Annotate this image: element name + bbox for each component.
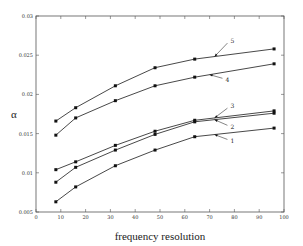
x-tick-label: 50 (157, 214, 163, 220)
x-tick-label: 100 (279, 214, 289, 220)
series-3-marker (54, 168, 57, 171)
x-tick-label: 80 (231, 214, 237, 220)
series-5-line (56, 49, 274, 121)
annotation-arrowhead (215, 135, 218, 137)
y-axis-title: α (11, 108, 17, 120)
x-tick-label: 10 (58, 214, 64, 220)
series-2-marker (54, 181, 57, 184)
series-1-marker (273, 127, 276, 130)
annotation-arrowhead (210, 74, 213, 76)
series-2-marker (114, 149, 117, 152)
series-4-marker (74, 116, 77, 119)
series-4-marker (154, 84, 157, 87)
series-3-marker (273, 109, 276, 112)
series-3-marker (154, 130, 157, 133)
series-4-marker (54, 134, 57, 137)
series-label-5: 5 (230, 37, 234, 44)
series-4-marker (114, 99, 117, 102)
series-4-marker (193, 76, 196, 79)
series-3-marker (193, 119, 196, 122)
series-3-marker (74, 160, 77, 163)
x-tick-label: 30 (107, 214, 113, 220)
annotation-arrowhead (215, 120, 218, 122)
series-5-marker (154, 66, 157, 69)
line-chart: 01020304050607080901000.0050.010.0150.02… (0, 0, 303, 246)
x-tick-label: 90 (256, 214, 262, 220)
series-1-marker (114, 164, 117, 167)
series-2-marker (154, 133, 157, 136)
series-label-4: 4 (225, 76, 229, 83)
y-tick-label: 0.015 (19, 131, 33, 137)
series-5-marker (273, 47, 276, 50)
y-tick-label: 0.03 (22, 13, 33, 19)
x-tick-label: 20 (82, 214, 88, 220)
x-tick-label: 70 (206, 214, 212, 220)
series-1-line (56, 128, 274, 202)
series-5-marker (193, 58, 196, 61)
series-2-line (56, 113, 274, 182)
series-5-marker (114, 84, 117, 87)
series-3-line (56, 111, 274, 170)
series-4-line (56, 64, 274, 135)
series-4-marker (273, 62, 276, 65)
y-tick-label: 0.02 (22, 91, 33, 97)
series-1-marker (193, 135, 196, 138)
series-label-1: 1 (230, 137, 234, 144)
series-label-2: 2 (230, 123, 234, 130)
series-2-marker (74, 166, 77, 169)
x-tick-label: 60 (182, 214, 188, 220)
plot-area: 01020304050607080901000.0050.010.0150.02… (19, 13, 289, 220)
x-axis-title: frequency resolution (115, 230, 206, 242)
series-1-marker (154, 149, 157, 152)
series-5-marker (74, 106, 77, 109)
y-tick-label: 0.025 (19, 52, 33, 58)
x-tick-label: 0 (34, 214, 37, 220)
series-1-marker (74, 185, 77, 188)
series-3-marker (114, 144, 117, 147)
y-tick-label: 0.005 (19, 209, 33, 215)
series-1-marker (54, 200, 57, 203)
series-label-3: 3 (230, 102, 234, 109)
x-tick-label: 40 (132, 214, 138, 220)
series-5-marker (54, 120, 57, 123)
y-tick-label: 0.01 (22, 170, 33, 176)
